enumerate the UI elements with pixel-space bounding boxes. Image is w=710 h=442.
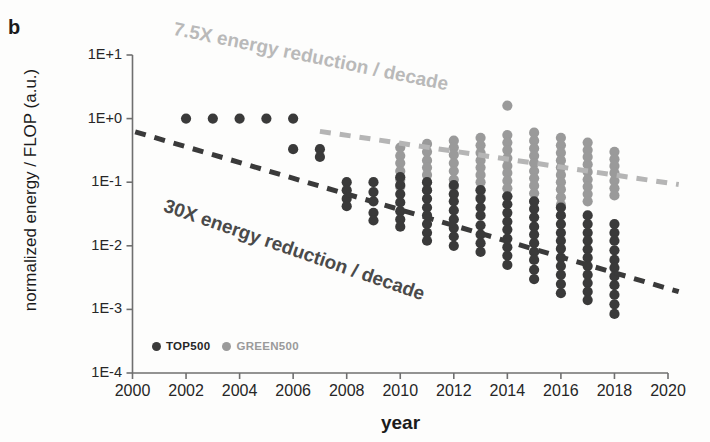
figure-panel: b normalized energy / FLOP (a.u.) year 1… xyxy=(0,0,710,442)
legend-item-green500: GREEN500 xyxy=(222,340,298,352)
x-tick-marks xyxy=(133,373,669,379)
legend-label-green500: GREEN500 xyxy=(236,340,298,352)
y-tick-marks xyxy=(127,55,133,373)
legend: TOP500 GREEN500 xyxy=(152,340,299,352)
legend-label-top500: TOP500 xyxy=(166,340,210,352)
legend-marker-top500-icon xyxy=(152,342,161,351)
legend-marker-green500-icon xyxy=(222,342,231,351)
legend-item-top500: TOP500 xyxy=(152,340,210,352)
